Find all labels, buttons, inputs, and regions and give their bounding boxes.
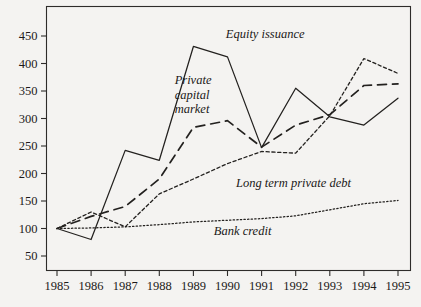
y-tick-label: 300	[19, 112, 38, 126]
x-tick-label: 1994	[351, 279, 377, 293]
line-chart: 50100150200250300350400450 1985198619871…	[0, 0, 421, 307]
x-tick-label: 1988	[147, 279, 172, 293]
x-tick-label: 1985	[45, 279, 70, 293]
y-tick-label: 150	[19, 194, 38, 208]
x-tick-label: 1986	[79, 279, 104, 293]
x-tick-label: 1995	[386, 279, 411, 293]
x-tick-label: 1993	[317, 279, 342, 293]
x-tick-label: 1987	[113, 279, 138, 293]
series-label-equity-issuance: Equity issuance	[225, 27, 305, 41]
y-tick-label: 50	[25, 249, 38, 263]
x-tick-label: 1989	[181, 279, 206, 293]
series-label-private-capital-market: capital	[175, 88, 210, 102]
y-tick-label: 450	[19, 29, 38, 43]
x-tick-label: 1992	[283, 279, 308, 293]
y-tick-label: 100	[19, 222, 38, 236]
y-tick-label: 250	[19, 139, 38, 153]
series-label-long-term-private-debt: Long term private debt	[235, 176, 351, 190]
chart-background	[0, 0, 421, 307]
y-tick-label: 200	[19, 167, 38, 181]
y-tick-label: 350	[19, 84, 38, 98]
series-label-private-capital-market: market	[175, 102, 210, 116]
x-tick-label: 1990	[215, 279, 240, 293]
y-tick-label: 400	[19, 57, 38, 71]
series-label-private-capital-market: Private	[174, 73, 212, 87]
chart-container: 50100150200250300350400450 1985198619871…	[0, 0, 421, 307]
series-label-bank-credit: Bank credit	[214, 224, 272, 238]
x-tick-label: 1991	[249, 279, 274, 293]
